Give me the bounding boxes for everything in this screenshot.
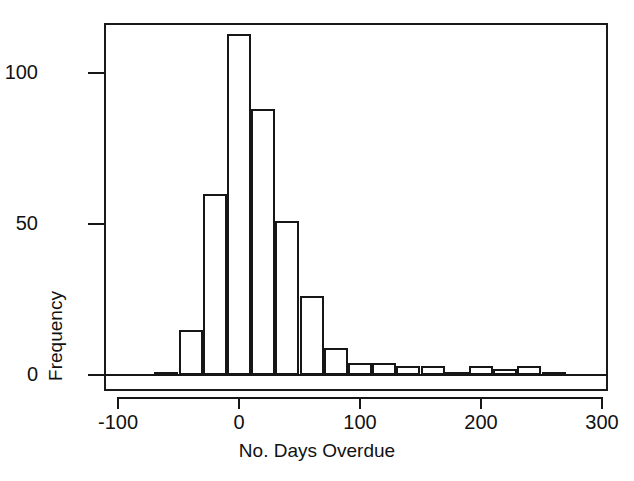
y-axis-tick-label: 100	[0, 62, 38, 82]
histogram-figure: 050100 -1000100200300 No. Days Overdue F…	[0, 0, 634, 481]
x-axis-tick-label: 300	[557, 411, 634, 433]
x-axis-title: No. Days Overdue	[0, 440, 634, 462]
y-axis-tick	[88, 374, 104, 376]
x-axis-tick	[117, 397, 119, 409]
x-axis-tick	[601, 397, 603, 409]
plot-area-frame	[104, 23, 608, 391]
y-axis-tick-label: 0	[0, 364, 38, 384]
x-axis-tick-label: 0	[194, 411, 284, 433]
x-axis-tick	[480, 397, 482, 409]
y-axis-tick	[88, 223, 104, 225]
y-axis-title: Frequency	[45, 236, 67, 436]
x-axis-tick	[359, 397, 361, 409]
y-axis-tick	[88, 72, 104, 74]
x-axis-tick-label: 200	[436, 411, 526, 433]
x-axis-tick-label: 100	[315, 411, 405, 433]
y-axis-title-holder: Frequency	[28, 120, 52, 310]
x-axis-tick-label: -100	[73, 411, 163, 433]
zero-baseline	[104, 374, 608, 376]
x-axis-tick	[238, 397, 240, 409]
